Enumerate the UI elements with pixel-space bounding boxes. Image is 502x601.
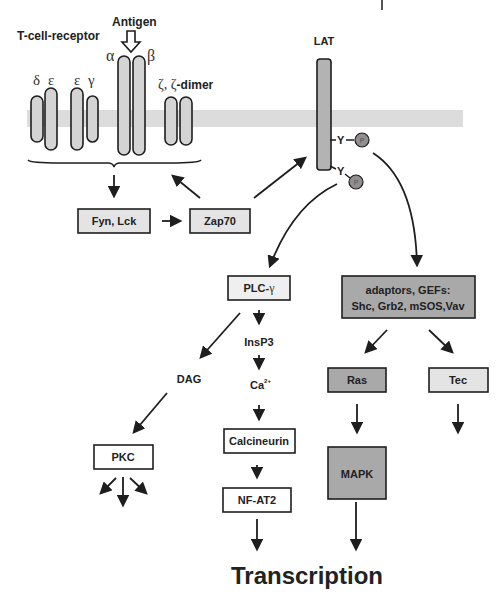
adaptors-gefs-node: adaptors, GEFs: Shc, Grb2, mSOS,Vav [342,276,475,318]
svg-text:P: P [360,137,365,144]
pkc-node: PKC [94,445,153,469]
svg-text:Calcineurin: Calcineurin [229,435,289,447]
lat-label: LAT [314,35,335,47]
arrow-dag-to-pkc [134,393,167,432]
epsilon-label-2: ε [74,72,80,88]
tcr-beta-chain [133,56,145,155]
svg-text:Fyn, Lck: Fyn, Lck [92,215,138,227]
svg-text:NF-AT2: NF-AT2 [238,494,276,506]
tcr-zeta-chain-1 [165,97,177,145]
arrow-plc-to-dag [201,313,240,357]
zeta-dimer-label: ζ, ζ-dimer [158,77,214,92]
tec-node: Tec [429,368,488,392]
beta-label: β [147,47,155,65]
svg-text:Shc, Grb2, mSOS,Vav: Shc, Grb2, mSOS,Vav [351,300,465,312]
antigen-label: Antigen [112,15,157,29]
arrow-lat-to-adaptors [373,153,417,265]
phosphate-1-icon: P [355,133,369,147]
tcr-label: T-cell-receptor [17,29,100,43]
gamma-label: γ [87,72,95,88]
transcription-label: Transcription [231,562,383,589]
svg-text:PKC: PKC [111,451,134,463]
epsilon-label-1: ε [48,72,54,88]
antigen-arrow-icon [122,31,140,52]
arrow-lat-to-plc [270,184,337,266]
mapk-node: MAPK [328,447,386,499]
arrow-adaptors-to-ras [366,330,387,352]
svg-text:adaptors, GEFs:: adaptors, GEFs: [366,284,451,296]
svg-text:MAPK: MAPK [341,468,373,480]
tcr-delta-chain [31,96,43,142]
tcr-signaling-diagram: T-cell-receptor Antigen δ ε ε γ α β ζ, ζ… [0,0,502,601]
svg-text:Ras: Ras [347,374,367,386]
fyn-lck-node: Fyn, Lck [78,209,150,233]
plc-gamma-node: PLC-γ [228,276,290,300]
receptor-brace [28,160,201,167]
svg-text:PLC-γ: PLC-γ [244,281,276,295]
tcr-epsilon-chain-2 [71,88,83,150]
tyrosine-2-label: Y [337,165,345,177]
nfat2-node: NF-AT2 [223,488,291,512]
insp3-label: InsP3 [244,336,273,348]
arrow-adaptors-to-tec [429,330,452,352]
arrow-zap70-to-tcr [173,176,200,198]
tcr-alpha-chain [118,56,130,155]
phosphate-2-icon: P [349,175,363,189]
tcr-gamma-chain [87,96,98,142]
dag-label: DAG [177,373,201,385]
delta-label: δ [33,72,40,88]
arrow-zap70-to-lat [254,158,305,198]
svg-text:P: P [354,179,359,186]
lat-protein [317,59,331,170]
calcium-label: Ca2+ [250,378,271,391]
alpha-label: α [106,47,115,64]
zap70-node: Zap70 [190,209,250,233]
pkc-output-arrows [101,477,146,505]
svg-text:Zap70: Zap70 [204,215,236,227]
tcr-zeta-chain-2 [180,97,192,145]
calcineurin-node: Calcineurin [224,429,295,453]
ras-node: Ras [328,368,386,392]
tcr-epsilon-chain-1 [45,88,57,150]
tyrosine-1-label: Y [337,134,345,146]
edge-mark [381,0,383,10]
svg-text:Tec: Tec [449,374,467,386]
